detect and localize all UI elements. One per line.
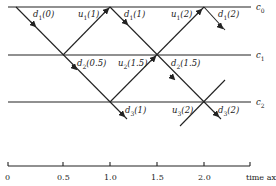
axis-label: time axis — [246, 174, 276, 182]
signal-label: d3(1) — [125, 106, 146, 117]
ray-u3-2 — [180, 80, 225, 126]
signal-label: u1(1) — [78, 10, 99, 21]
arrow-icon — [104, 10, 107, 13]
tick-label: 0 — [5, 174, 10, 182]
signal-label: d1(0) — [33, 10, 54, 21]
signal-label: d1(1) — [124, 10, 145, 21]
signal-label: d3(2) — [218, 106, 239, 117]
signal-label: d1(2) — [218, 10, 239, 21]
signal-label: d2(1.5) — [171, 59, 200, 70]
signal-label: u2(1.5) — [118, 59, 147, 70]
tick-label: 1.5 — [151, 174, 164, 182]
arrow-icon — [197, 11, 200, 14]
signal-label: d2(0.5) — [77, 59, 106, 70]
arrow-icon — [214, 112, 217, 115]
label-c0: c0 — [256, 3, 265, 14]
tick-label: 0.5 — [57, 174, 70, 182]
signal-label: u1(2) — [171, 10, 192, 21]
arrow-icon — [170, 75, 173, 78]
lattice-diagram — [0, 0, 276, 186]
tick-label: 2.0 — [198, 174, 211, 182]
signal-label: u3(2) — [172, 106, 193, 117]
label-c1: c1 — [256, 51, 265, 62]
tick-label: 1.0 — [104, 174, 117, 182]
arrow-icon — [120, 112, 123, 115]
arrow-icon — [31, 22, 34, 25]
label-c2: c2 — [256, 98, 265, 109]
